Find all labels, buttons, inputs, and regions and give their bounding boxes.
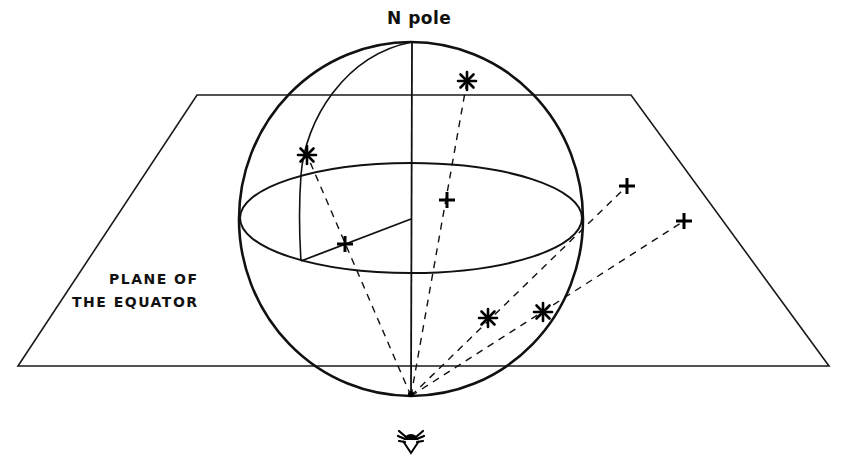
south-pole-point xyxy=(408,391,414,397)
meridian-arc xyxy=(299,42,412,261)
eye-icon xyxy=(398,431,424,453)
plane-label-line2: THE EQUATOR xyxy=(72,291,199,314)
star-icon xyxy=(458,72,476,90)
celestial-sphere-diagram xyxy=(0,0,846,472)
polar-axis xyxy=(411,42,412,396)
north-pole-label: N pole xyxy=(387,10,451,27)
plane-of-equator-label: PLANE OF THE EQUATOR xyxy=(98,268,199,314)
plus-icon xyxy=(439,192,455,208)
star-icon xyxy=(298,146,316,164)
ray-star-3 xyxy=(411,186,627,396)
equator-radius xyxy=(301,219,411,261)
plane-label-line1: PLANE OF xyxy=(98,268,199,291)
star-icon xyxy=(534,303,552,321)
plus-icon xyxy=(619,178,635,194)
plus-icon xyxy=(337,236,353,252)
plus-icon xyxy=(676,213,692,229)
projection-markers xyxy=(337,178,692,252)
projection-rays xyxy=(307,81,684,396)
star-markers xyxy=(298,72,552,327)
star-icon xyxy=(479,309,497,327)
ray-star-1 xyxy=(307,155,411,396)
